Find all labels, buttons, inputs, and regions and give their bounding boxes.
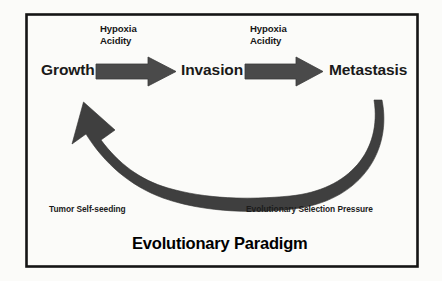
transition-condition-line2-left: Acidity	[100, 35, 131, 47]
transition-condition-line1-left: Hypoxia	[100, 23, 137, 35]
stage-label-invasion: Invasion	[181, 62, 243, 79]
transition-condition-line2-right: Acidity	[250, 35, 281, 47]
annotation-evolutionary-selection-pressure: Evolutionary Selection Pressure	[246, 205, 373, 214]
stage-label-metastasis: Metastasis	[329, 62, 407, 79]
stage-label-growth: Growth	[41, 62, 95, 79]
transition-condition-line1-right: Hypoxia	[250, 23, 287, 35]
figure-title: Evolutionary Paradigm	[132, 235, 308, 253]
evolutionary-paradigm-figure: Growth Invasion Metastasis Hypoxia Acidi…	[0, 0, 442, 281]
annotation-tumor-self-seeding: Tumor Self-seeding	[49, 205, 126, 214]
figure-border	[27, 15, 418, 267]
